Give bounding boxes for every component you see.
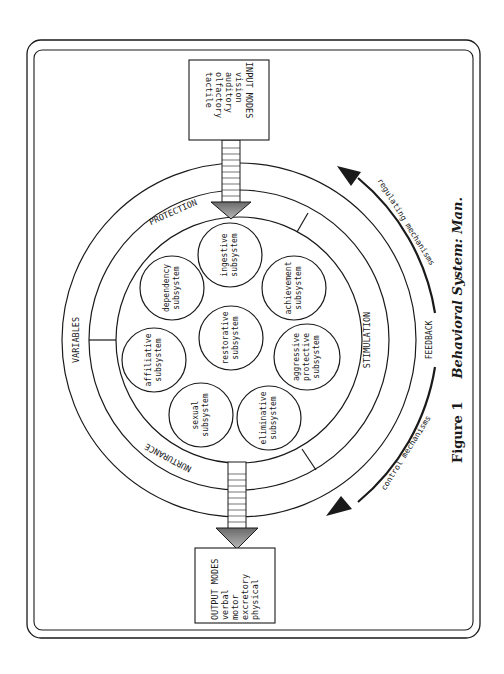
input-modes-title: INPUT MODES [244, 62, 254, 138]
control-arrowhead-icon [326, 496, 352, 516]
figure-title: Behavioral System: Man. [450, 197, 465, 378]
output-arrow [216, 462, 258, 549]
output-mode-item: physical [250, 550, 260, 620]
input-mode-item: tactile [204, 62, 214, 138]
input-mode-item: vision [234, 62, 244, 138]
restorative-subsystem-label: restorativesubsystem [221, 312, 241, 365]
sexual-subsystem-label: sexualsubsystem [191, 393, 211, 436]
eliminative-subsystem-label: eliminativesubsystem [259, 392, 279, 445]
variables-label: VARIABLES [71, 317, 81, 363]
output-mode-item: excretory [240, 550, 250, 620]
figure-caption: Figure 1 Behavioral System: Man. [450, 197, 465, 463]
output-modes-title: OUTPUT MODES [210, 550, 220, 620]
control-arc [358, 367, 435, 502]
stimulation-label: STIMULATION [362, 312, 372, 368]
output-mode-item: verbal [220, 550, 230, 620]
output-mode-item: motor [230, 550, 240, 620]
dependency-subsystem-label: dependencysubsystem [162, 264, 182, 312]
output-modes-text: OUTPUT MODES verbal motor excretory phys… [210, 550, 260, 620]
figure-number: Figure 1 [450, 402, 465, 463]
input-mode-item: auditory [224, 62, 234, 138]
achievement-subsystem-label: achievementsubsystem [284, 262, 304, 315]
aggressive-protective-subsystem-label: aggressiveprotectivesubsystem [292, 333, 322, 381]
input-mode-item: olfactory [214, 62, 224, 138]
input-arrow [211, 140, 251, 219]
regulating-arrowhead-icon [337, 166, 361, 186]
ingestive-subsystem-label: ingestivesubsystem [220, 233, 240, 276]
affiliative-subsystem-label: affiliativesubsystem [144, 334, 164, 387]
feedback-label: FEEDBACK [425, 321, 434, 360]
input-modes-text: INPUT MODES vision auditory olfactory ta… [204, 62, 254, 138]
